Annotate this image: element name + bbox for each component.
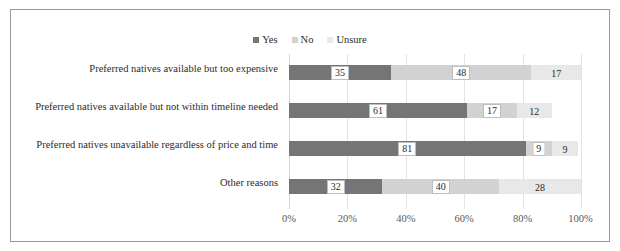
- legend-label-no: No: [301, 34, 314, 46]
- category-label: Other reasons: [0, 176, 278, 189]
- bar-segment-yes[interactable]: 81: [289, 141, 526, 156]
- bar-segment-no[interactable]: 9: [526, 141, 552, 156]
- chart-legend: Yes No Unsure: [0, 33, 620, 47]
- bar-segment-yes[interactable]: 61: [289, 103, 467, 118]
- x-tick-label: 80%: [513, 212, 532, 225]
- legend-swatch-no: [292, 37, 298, 43]
- bar-segment-no[interactable]: 48: [391, 65, 531, 80]
- bar-row: 61 17 12: [289, 103, 581, 118]
- legend-swatch-unsure: [327, 37, 333, 43]
- bar-rows: 35 48 17 61 17 12: [289, 54, 581, 209]
- bar-row: 35 48 17: [289, 65, 581, 80]
- data-label: 61: [369, 104, 387, 118]
- data-label: 35: [331, 66, 349, 80]
- x-tick-label: 0%: [282, 212, 296, 225]
- bar-segment-unsure[interactable]: 9: [552, 141, 578, 156]
- data-label: 28: [535, 181, 545, 192]
- bar-segment-unsure[interactable]: 28: [499, 179, 581, 194]
- data-label: 9: [562, 143, 567, 154]
- bar-segment-unsure[interactable]: 17: [531, 65, 581, 80]
- bar-row: 32 40 28: [289, 179, 581, 194]
- category-axis-labels: Preferred natives available but too expe…: [0, 54, 284, 209]
- legend-label-unsure: Unsure: [336, 34, 366, 46]
- data-label: 81: [398, 142, 416, 156]
- data-label: 17: [483, 104, 501, 118]
- category-label: Preferred natives available but too expe…: [0, 62, 278, 75]
- data-label: 9: [532, 142, 545, 156]
- data-label: 17: [551, 67, 561, 78]
- category-label: Preferred natives unavailable regardless…: [0, 138, 278, 151]
- data-label: 32: [327, 180, 345, 194]
- data-label: 40: [432, 180, 450, 194]
- bar-segment-no[interactable]: 17: [467, 103, 517, 118]
- bar-segment-yes[interactable]: 32: [289, 179, 382, 194]
- bar-row: 81 9 9: [289, 141, 581, 156]
- bar-segment-unsure[interactable]: 12: [517, 103, 552, 118]
- plot-area: 35 48 17 61 17 12: [289, 54, 581, 209]
- legend-entry-unsure[interactable]: Unsure: [327, 34, 366, 46]
- x-tick-label: 100%: [568, 212, 593, 225]
- bar-segment-yes[interactable]: 35: [289, 65, 391, 80]
- x-axis-tick-labels: 0% 20% 40% 60% 80% 100%: [289, 212, 581, 228]
- legend-entry-no[interactable]: No: [292, 34, 314, 46]
- legend-label-yes: Yes: [262, 34, 277, 46]
- x-tick-label: 40%: [396, 212, 415, 225]
- x-tick-label: 60%: [455, 212, 474, 225]
- legend-swatch-yes: [253, 37, 259, 43]
- legend-entry-yes[interactable]: Yes: [253, 34, 277, 46]
- x-tick-label: 20%: [338, 212, 357, 225]
- bar-segment-no[interactable]: 40: [382, 179, 499, 194]
- data-label: 48: [452, 66, 470, 80]
- category-label: Preferred natives available but not with…: [0, 100, 278, 113]
- chart-figure: Yes No Unsure Preferred natives availabl…: [0, 0, 620, 251]
- data-label: 12: [529, 105, 539, 116]
